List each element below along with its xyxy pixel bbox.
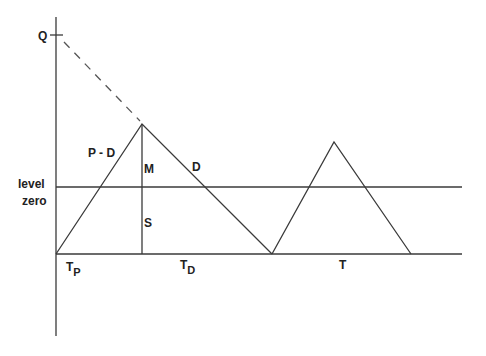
label-tp: TP <box>66 260 81 278</box>
label-m: M <box>144 162 154 176</box>
label-level: level <box>18 177 45 191</box>
cycle-1-triangle <box>56 124 272 254</box>
label-t: T <box>339 258 347 272</box>
label-d: D <box>192 160 201 174</box>
label-q: Q <box>38 29 47 43</box>
dashed-extension-line <box>64 42 140 121</box>
label-td: TD <box>180 258 195 276</box>
label-s: S <box>144 216 152 230</box>
label-p-minus-d: P - D <box>88 146 115 160</box>
inventory-cycle-diagram: Q P - D M D level zero S TP TD T <box>0 0 486 356</box>
label-zero: zero <box>22 194 47 208</box>
cycle-2-triangle <box>272 142 411 254</box>
